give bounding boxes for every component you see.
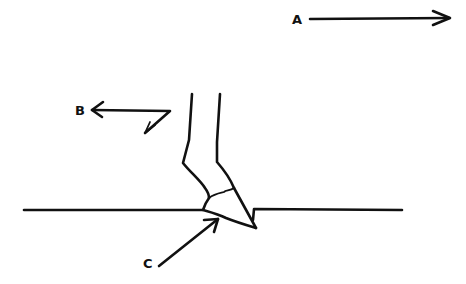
diagram-canvas: A B C xyxy=(0,0,466,284)
label-a: A xyxy=(292,12,302,27)
hoof xyxy=(203,188,256,228)
label-c: C xyxy=(143,256,153,271)
arrow-b xyxy=(92,102,170,133)
arrow-c xyxy=(159,219,218,266)
label-b: B xyxy=(75,103,85,118)
horse-leg xyxy=(183,94,234,198)
arrow-a xyxy=(310,11,450,25)
